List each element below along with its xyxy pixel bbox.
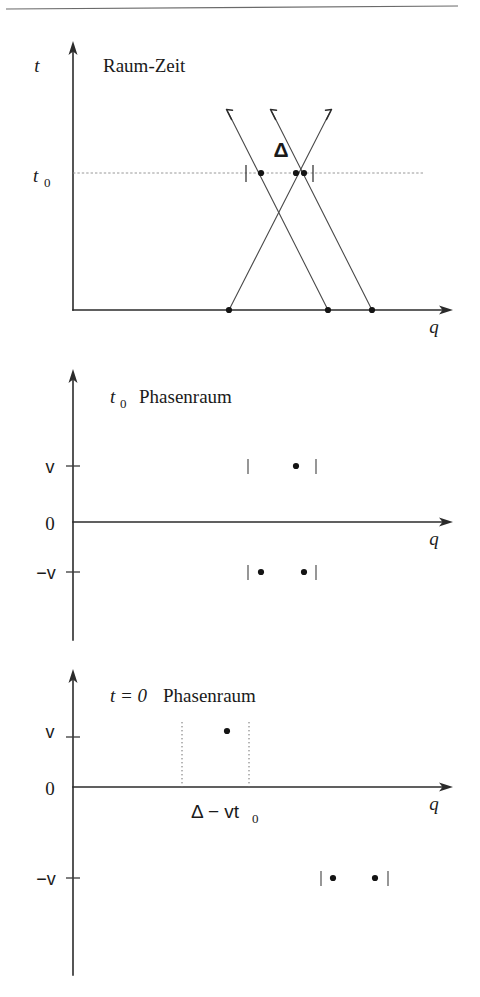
phasespace-tzero-q-axis-label: q: [429, 793, 439, 814]
panel-spacetime: t q Raum-Zeit t 0 Δ: [33, 41, 453, 337]
phasespace-t0-ylabel-v: v: [46, 457, 55, 477]
phasespace-t0-q-axis-label: q: [429, 528, 439, 549]
panel-phasespace-t0: v 0 −v q t 0 Phasenraum: [36, 369, 453, 640]
spacetime-separation-delta-label: Δ: [273, 138, 288, 161]
spacetime-q-axis-label: q: [429, 316, 439, 337]
figure-root: t q Raum-Zeit t 0 Δ: [0, 0, 480, 997]
phasespace-t0-dot-lower: [258, 569, 264, 575]
spacetime-level-dot: [258, 170, 264, 176]
phasespace-tzero-dot-lower: [372, 875, 378, 881]
spacetime-t0-label-subscript: 0: [44, 175, 51, 190]
spacetime-level-dot: [301, 170, 307, 176]
phasespace-tzero-ylabel-v: v: [46, 722, 55, 742]
spacetime-base-dot: [369, 307, 375, 313]
spacetime-level-dot: [293, 170, 299, 176]
phasespace-t0-panel-title: Phasenraum: [139, 386, 232, 407]
top-horizontal-rule: [6, 6, 458, 9]
phasespace-tzero-interval-annotation: Δ − vt: [191, 801, 240, 822]
phasespace-tzero-title-math: t = 0: [110, 685, 148, 706]
phasespace-t0-title-math: t: [110, 386, 116, 407]
phasespace-tzero-dot-upper: [224, 728, 230, 734]
spacetime-base-dot: [226, 307, 232, 313]
phasespace-t0-dot-upper: [293, 463, 299, 469]
phasespace-tzero-ylabel-minus-v: −v: [36, 869, 56, 889]
phasespace-t0-dot-lower: [301, 569, 307, 575]
phasespace-t0-title-math-subscript: 0: [120, 396, 127, 411]
phasespace-tzero-interval-annotation-subscript: 0: [252, 811, 259, 826]
spacetime-t-axis-label: t: [34, 55, 40, 76]
phasespace-tzero-panel-title: Phasenraum: [163, 685, 256, 706]
spacetime-base-dot: [325, 307, 331, 313]
phasespace-tzero-dot-lower: [330, 875, 336, 881]
spacetime-panel-title: Raum-Zeit: [103, 55, 186, 76]
diagram-canvas: t q Raum-Zeit t 0 Δ: [0, 0, 480, 997]
panel-phasespace-t-zero: v 0 −v q t = 0 Phasenraum Δ − vt 0: [36, 669, 453, 975]
phasespace-t0-ylabel-zero: 0: [45, 513, 55, 534]
spacetime-t0-label: t: [33, 165, 39, 186]
phasespace-tzero-ylabel-zero: 0: [45, 778, 55, 799]
phasespace-t0-ylabel-minus-v: −v: [36, 563, 56, 583]
